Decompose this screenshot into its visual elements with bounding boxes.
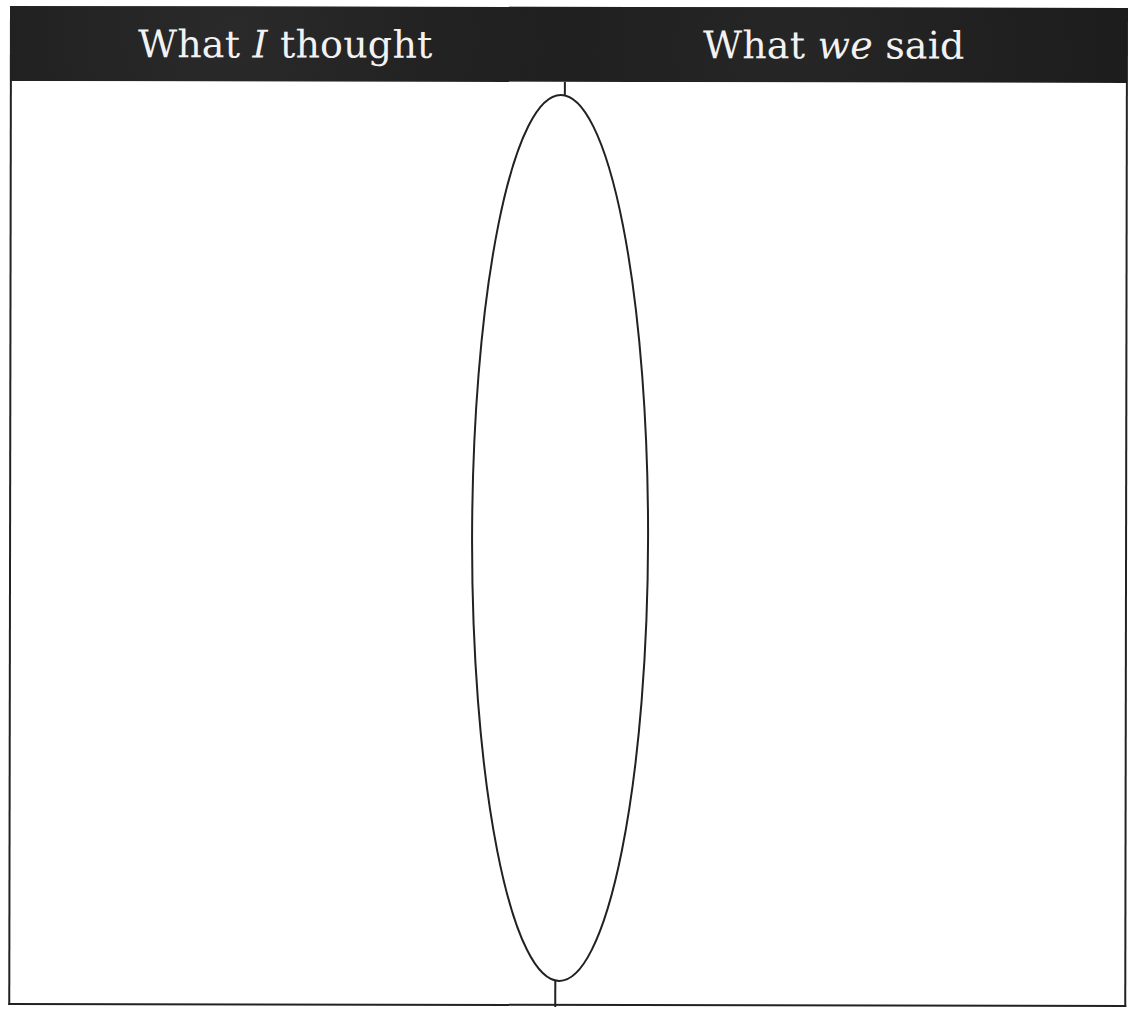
divider-diagram — [6, 6, 1128, 1013]
center-ellipse — [471, 95, 649, 981]
organizer-sheet: What I thought What we said — [6, 6, 1128, 1008]
